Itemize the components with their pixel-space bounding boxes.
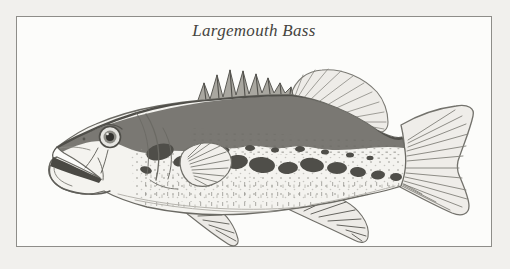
largemouth-bass-illustration [0, 0, 510, 269]
illustration-plate: Largemouth Bass [0, 0, 510, 269]
nostril [83, 138, 86, 141]
caudal-fin [400, 105, 473, 214]
